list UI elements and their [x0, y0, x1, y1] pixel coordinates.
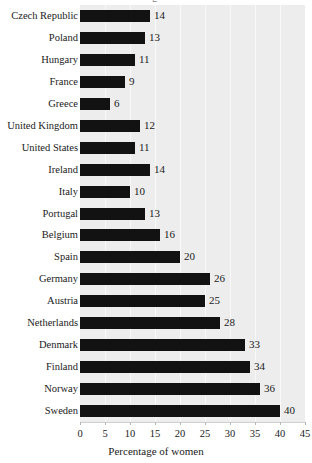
bar-row: 14	[80, 159, 305, 181]
bar-row: 36	[80, 378, 305, 400]
bar-value-label: 36	[264, 381, 275, 396]
category-label: Ireland	[0, 159, 78, 181]
category-label: Portugal	[0, 203, 78, 225]
bar-row: 6	[80, 93, 305, 115]
x-tick-mark	[280, 422, 281, 425]
bar-value-label: 20	[184, 249, 195, 264]
category-label: Belgium	[0, 224, 78, 246]
bar-value-label: 10	[134, 184, 145, 199]
x-tick-mark	[155, 422, 156, 425]
x-tick-label: 45	[290, 427, 312, 441]
bar-value-label: 11	[139, 140, 150, 155]
bar	[80, 317, 220, 329]
category-label: Austria	[0, 290, 78, 312]
bar-row: 40	[80, 400, 305, 422]
category-label: Greece	[0, 93, 78, 115]
bar	[80, 405, 280, 417]
bar-value-label: 11	[139, 52, 150, 67]
bar-row: 10	[80, 181, 305, 203]
category-label: Netherlands	[0, 312, 78, 334]
x-tick-mark	[130, 422, 131, 425]
category-label: Norway	[0, 378, 78, 400]
bar	[80, 273, 210, 285]
bar-row: 26	[80, 268, 305, 290]
category-label: United States	[0, 137, 78, 159]
bar-row: 34	[80, 356, 305, 378]
bar-value-label: 13	[149, 30, 160, 45]
bar-row: 11	[80, 137, 305, 159]
bar-value-label: 13	[149, 206, 160, 221]
bar	[80, 383, 260, 395]
x-tick-mark	[205, 422, 206, 425]
bar	[80, 54, 135, 66]
bar	[80, 120, 140, 132]
plot-area: 141311961211141013162026252833343640	[80, 5, 305, 422]
bar-value-label: 9	[129, 74, 135, 89]
category-label: United Kingdom	[0, 115, 78, 137]
category-label: Denmark	[0, 334, 78, 356]
bar-value-label: 14	[154, 162, 165, 177]
bar	[80, 251, 180, 263]
category-label: France	[0, 71, 78, 93]
bar-value-label: 40	[284, 403, 295, 418]
bar	[80, 339, 245, 351]
bar	[80, 142, 135, 154]
bar-row: 13	[80, 27, 305, 49]
bar-value-label: 25	[209, 293, 220, 308]
x-tick-mark	[80, 422, 81, 425]
category-label: Spain	[0, 246, 78, 268]
x-tick-mark	[255, 422, 256, 425]
bar	[80, 10, 150, 22]
bar	[80, 98, 110, 110]
bar-row: 28	[80, 312, 305, 334]
bar-row: 9	[80, 71, 305, 93]
x-tick-mark	[230, 422, 231, 425]
category-label: Poland	[0, 27, 78, 49]
x-axis-line	[80, 422, 305, 423]
bar-row: 16	[80, 224, 305, 246]
bar-value-label: 33	[249, 337, 260, 352]
x-tick-mark	[105, 422, 106, 425]
bar	[80, 361, 250, 373]
category-label: Hungary	[0, 49, 78, 71]
category-label: Czech Republic	[0, 5, 78, 27]
bar	[80, 76, 125, 88]
bar-value-label: 26	[214, 271, 225, 286]
bar	[80, 229, 160, 241]
bar-value-label: 14	[154, 8, 165, 23]
x-axis-title: Percentage of women	[0, 444, 312, 459]
category-label: Italy	[0, 181, 78, 203]
bar	[80, 164, 150, 176]
bar-row: 33	[80, 334, 305, 356]
clipped-title-descender: g	[152, 0, 162, 2]
x-tick-mark	[305, 422, 306, 425]
bar-chart-figure: g 141311961211141013162026252833343640 C…	[0, 0, 312, 463]
bar	[80, 208, 145, 220]
bar-row: 25	[80, 290, 305, 312]
bar-row: 11	[80, 49, 305, 71]
bar-value-label: 12	[144, 118, 155, 133]
bar-row: 20	[80, 246, 305, 268]
bar-value-label: 34	[254, 359, 265, 374]
bar-row: 14	[80, 5, 305, 27]
x-tick-mark	[180, 422, 181, 425]
category-label: Sweden	[0, 400, 78, 422]
bar	[80, 32, 145, 44]
bar-value-label: 16	[164, 227, 175, 242]
bar-row: 12	[80, 115, 305, 137]
category-label: Germany	[0, 268, 78, 290]
bar-value-label: 28	[224, 315, 235, 330]
bar-row: 13	[80, 203, 305, 225]
bar-value-label: 6	[114, 96, 120, 111]
category-label: Finland	[0, 356, 78, 378]
bar	[80, 295, 205, 307]
bar	[80, 186, 130, 198]
